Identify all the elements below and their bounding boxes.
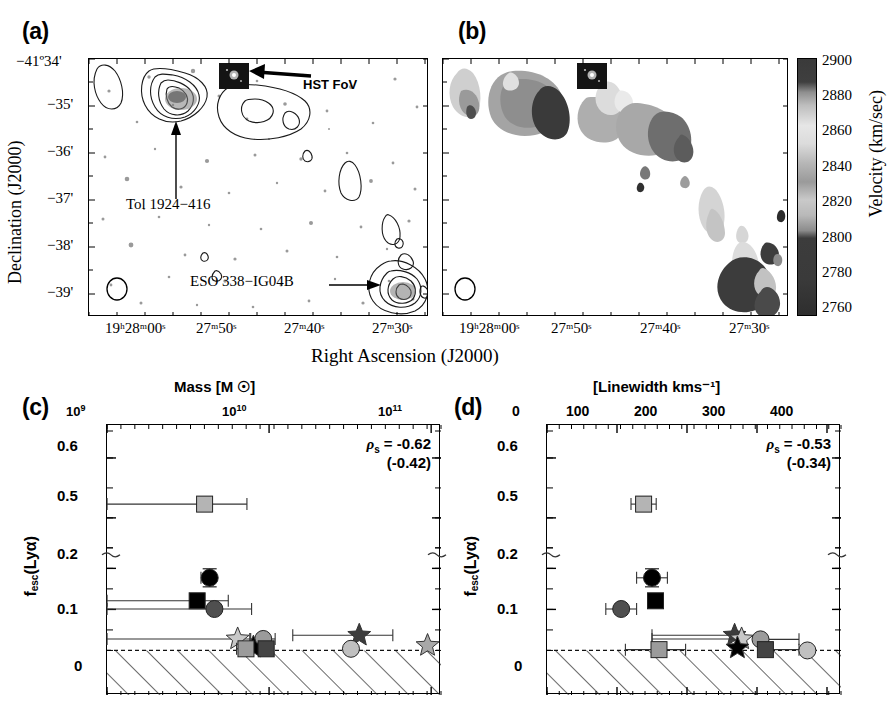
marker-square (651, 642, 667, 658)
ra-tick-b-1: 27ᵐ50ˢ (551, 320, 592, 337)
dec-tick-1: −35' (47, 96, 73, 113)
marker-square (238, 641, 254, 657)
data-point (293, 623, 393, 645)
hst-fov-inset-b (577, 63, 607, 89)
data-point (258, 641, 274, 657)
marker-square (757, 642, 773, 658)
ra-tick-b-2: 27ᵐ40ˢ (640, 320, 681, 337)
panel-d-ylabel: fesc(Lyα) (462, 536, 480, 597)
marker-square (648, 593, 664, 609)
x-error-bar (107, 603, 252, 615)
panel-d-xtick-400: 400 (770, 403, 793, 419)
colorbar-tick-4: 2820 (822, 193, 852, 210)
data-point (799, 642, 816, 659)
panel-c-ytick-0.5: 0.5 (57, 487, 78, 504)
colorbar-tick-6: 2780 (822, 264, 852, 281)
panel-d-xtick-100: 100 (566, 403, 589, 419)
rho-value-d: = -0.53 (780, 435, 831, 452)
rho-value-c: = -0.62 (380, 435, 431, 452)
colorbar-axis-label: Velocity (km/sec) (866, 90, 887, 217)
marker-square (189, 593, 205, 609)
mass-title-text: Mass [M ☉] (174, 378, 255, 395)
data-point (107, 627, 250, 649)
panel-d-xtick-300: 300 (702, 403, 725, 419)
panel-letter-d: (d) (454, 394, 482, 421)
panel-d-ytick-0.2: 0.2 (497, 545, 518, 562)
linewidth-title-text: [Linewidth kms⁻¹] (593, 378, 720, 395)
ra-tick-a-0: 19ʰ28ᵐ00ˢ (105, 320, 165, 337)
panel-c-ylabel: fesc(Lyα) (22, 536, 40, 597)
data-point (631, 496, 656, 512)
marker-square (197, 496, 213, 512)
panel-d-ytick-0.1: 0.1 (497, 600, 518, 617)
panel-d-xtick-0: 0 (512, 403, 520, 419)
panel-c-rho-annotation: ρs = -0.62 (-0.42) (331, 436, 431, 470)
colorbar-tick-1: 2880 (822, 87, 852, 104)
ylabel-sub-c: esc (29, 575, 40, 592)
panel-letter-b: (b) (458, 18, 486, 45)
panel-d-ytick-0: 0 (514, 657, 522, 674)
rho-symbol-c: ρ (366, 436, 374, 452)
marker-circle (799, 642, 816, 659)
marker-circle (201, 569, 218, 586)
marker-circle (206, 600, 223, 617)
data-point (201, 569, 218, 587)
data-point (107, 496, 247, 512)
colorbar-tick-5: 2800 (822, 229, 852, 246)
colorbar-tick-3: 2840 (822, 158, 852, 175)
ylabel-base-c: f (22, 591, 39, 596)
data-point (648, 593, 664, 609)
data-points (107, 496, 439, 657)
x-error-bar (293, 629, 393, 641)
panel-d-ytick-0.5: 0.5 (497, 487, 518, 504)
sky-image-panel-b (442, 58, 788, 316)
sky-map-b-svg (443, 59, 788, 316)
data-point (237, 641, 254, 657)
ra-tick-b-3: 27ᵐ30ˢ (729, 320, 770, 337)
dec-tick-4: −38' (47, 237, 73, 254)
declination-axis-label: Declination (J2000) (6, 84, 24, 284)
colorbar-tick-7: 2760 (822, 299, 852, 316)
data-points (606, 496, 816, 659)
ra-tick-a-3: 27ᵐ30ˢ (372, 320, 413, 337)
right-ascension-axis-label: Right Ascension (J2000) (311, 345, 499, 367)
panel-d-ytick-0.6: 0.6 (497, 437, 518, 454)
rho-paren-c: (-0.42) (331, 455, 431, 470)
data-point (107, 600, 252, 617)
ylabel-base-d: f (462, 591, 479, 596)
panel-c-ytick-0.6: 0.6 (57, 437, 78, 454)
velocity-colorbar (797, 58, 817, 316)
data-point (342, 640, 359, 657)
panel-c-xtick-1: 1010 (222, 403, 246, 419)
panel-c-ytick-0.1: 0.1 (57, 600, 78, 617)
hst-fov-inset (219, 63, 249, 89)
rho-paren-d: (-0.34) (731, 455, 831, 470)
marker-square (636, 496, 652, 512)
marker-circle (644, 569, 661, 586)
panel-c-xtick-2: 1011 (378, 403, 402, 419)
data-point (637, 569, 668, 587)
ra-tick-b-0: 19ʰ28ᵐ00ˢ (459, 320, 519, 337)
eso-label: ESO 338−IG04B (190, 273, 294, 290)
dec-tick-2: −36' (47, 143, 73, 160)
panel-d-xtick-200: 200 (634, 403, 657, 419)
dec-tick-5: −39' (47, 284, 73, 301)
dec-tick-0: −41º34' (16, 53, 62, 70)
panel-d-axis-title: [Linewidth kms⁻¹] (593, 378, 720, 396)
colorbar-tick-2: 2860 (822, 122, 852, 139)
colorbar-gradient (798, 59, 816, 315)
tol-label: Tol 1924−416 (126, 196, 211, 213)
hst-fov-label-a: HST FoV (303, 77, 357, 92)
panel-c-ytick-0.2: 0.2 (57, 545, 78, 562)
ylabel-rest-d: (Lyα) (462, 536, 479, 575)
panel-d-rho-annotation: ρs = -0.53 (-0.34) (731, 436, 831, 470)
marker-circle (613, 600, 630, 617)
data-point (606, 600, 637, 617)
panel-c-xtick-0: 109 (66, 403, 85, 419)
ylabel-sub-d: esc (469, 575, 480, 592)
panel-c-axis-title: Mass [M ☉] (174, 378, 255, 396)
dec-tick-3: −37' (47, 190, 73, 207)
figure-root: (a) Declination (J2000) −41º34' −35' −36… (0, 0, 889, 719)
panel-letter-c: (c) (22, 394, 49, 421)
marker-circle (342, 640, 359, 657)
